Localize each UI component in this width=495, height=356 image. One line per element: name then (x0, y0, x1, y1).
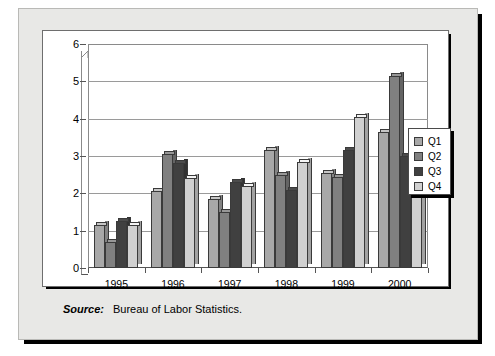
legend-swatch-icon (414, 152, 423, 161)
x-tick-label-1996: 1996 (161, 279, 184, 290)
bar-q3-1997[interactable] (230, 182, 241, 268)
bar-q2-1995[interactable] (105, 242, 116, 268)
y-tick-mark (80, 231, 86, 232)
y-tick-label: 2 (73, 188, 79, 199)
bar-q4-1996[interactable] (184, 178, 195, 268)
legend-item-q3[interactable]: Q3 (414, 164, 450, 179)
bar-front-face (173, 163, 184, 268)
bar-q3-1996[interactable] (173, 163, 184, 268)
bar-front-face (184, 178, 195, 268)
bar-q1-1996[interactable] (151, 191, 162, 268)
source-label: Source: (63, 303, 104, 315)
bar-front-face (208, 199, 219, 268)
x-tick-mark (371, 268, 372, 273)
y-tick-label: 4 (73, 113, 79, 124)
bar-front-face (343, 150, 354, 268)
figure-card: 0123456 199519961997199819992000 Q1Q2Q3Q… (18, 8, 478, 340)
x-tick-label-1998: 1998 (275, 279, 298, 290)
y-tick-label: 0 (73, 263, 79, 274)
bar-q2-1998[interactable] (275, 175, 286, 268)
bar-q2-1996[interactable] (162, 154, 173, 268)
y-axis-riser (81, 51, 88, 275)
bar-front-face (264, 150, 275, 268)
bar-side-face (308, 158, 312, 264)
bar-q1-1999[interactable] (321, 173, 332, 268)
x-tick-mark (258, 268, 259, 273)
legend-swatch-icon (414, 167, 423, 176)
chart-legend: Q1Q2Q3Q4 (408, 128, 451, 195)
bar-q2-1999[interactable] (332, 177, 343, 268)
bar-front-face (94, 225, 105, 268)
y-tick-label: 1 (73, 225, 79, 236)
bar-q2-2000[interactable] (389, 76, 400, 268)
x-tick-mark (145, 268, 146, 273)
y-tick-label: 5 (73, 76, 79, 87)
bar-q1-1998[interactable] (264, 150, 275, 268)
chart-panel: 0123456 199519961997199819992000 (42, 30, 449, 287)
bar-front-face (286, 190, 297, 268)
x-tick-mark (315, 268, 316, 273)
gridline (88, 119, 428, 120)
bar-front-face (219, 212, 230, 268)
legend-item-q1[interactable]: Q1 (414, 134, 450, 149)
y-tick-mark (80, 119, 86, 120)
y-tick-mark (80, 81, 86, 82)
bar-q2-1997[interactable] (219, 212, 230, 268)
y-tick-mark (80, 44, 86, 45)
bar-front-face (241, 186, 252, 268)
source-note: Source:Bureau of Labor Statistics. (63, 303, 242, 315)
bar-front-face (297, 162, 308, 268)
legend-swatch-icon (414, 182, 423, 191)
bar-front-face (321, 173, 332, 268)
x-tick-mark (428, 268, 429, 273)
x-tick-label-2000: 2000 (388, 279, 411, 290)
bar-front-face (354, 117, 365, 268)
legend-item-q2[interactable]: Q2 (414, 149, 450, 164)
legend-label: Q4 (428, 182, 441, 192)
x-tick-label-1999: 1999 (331, 279, 354, 290)
legend-item-q4[interactable]: Q4 (414, 179, 450, 194)
bar-front-face (230, 182, 241, 268)
bar-q1-1997[interactable] (208, 199, 219, 268)
bar-front-face (332, 177, 343, 268)
x-tick-label-1995: 1995 (105, 279, 128, 290)
bar-front-face (151, 191, 162, 268)
legend-label: Q1 (428, 137, 441, 147)
bar-q1-2000[interactable] (378, 132, 389, 268)
bar-q4-1999[interactable] (354, 117, 365, 268)
bar-q3-1998[interactable] (286, 190, 297, 268)
bar-front-face (162, 154, 173, 268)
x-tick-label-1997: 1997 (218, 279, 241, 290)
bar-q3-1999[interactable] (343, 150, 354, 268)
x-tick-mark (88, 268, 89, 273)
y-tick-mark (80, 156, 86, 157)
plot-area: 0123456 199519961997199819992000 (88, 44, 428, 268)
bar-side-face (252, 182, 256, 264)
legend-label: Q3 (428, 167, 441, 177)
y-tick-mark (80, 193, 86, 194)
figure-page: 0123456 199519961997199819992000 Q1Q2Q3Q… (0, 0, 495, 356)
x-tick-mark (201, 268, 202, 273)
bar-side-face (138, 221, 142, 264)
bar-front-face (116, 221, 127, 268)
bar-front-face (127, 225, 138, 268)
bar-front-face (389, 76, 400, 268)
bar-q4-1998[interactable] (297, 162, 308, 268)
bar-q1-1995[interactable] (94, 225, 105, 268)
bar-front-face (378, 132, 389, 268)
bar-side-face (195, 174, 199, 264)
y-tick-label: 3 (73, 151, 79, 162)
y-tick-label: 6 (73, 39, 79, 50)
gridline (88, 81, 428, 82)
bar-q4-1997[interactable] (241, 186, 252, 268)
bar-front-face (275, 175, 286, 268)
bar-q4-1995[interactable] (127, 225, 138, 268)
legend-swatch-icon (414, 137, 423, 146)
bar-front-face (105, 242, 116, 268)
source-text: Bureau of Labor Statistics. (113, 303, 242, 315)
bar-q3-1995[interactable] (116, 221, 127, 268)
y-tick-mark (80, 268, 86, 269)
legend-label: Q2 (428, 152, 441, 162)
bar-side-face (365, 113, 369, 264)
